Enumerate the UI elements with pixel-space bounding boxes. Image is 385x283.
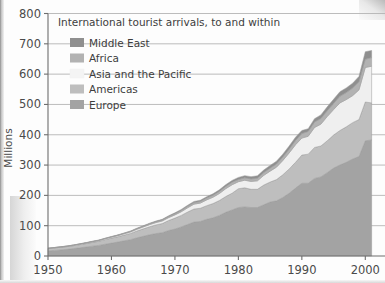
y-tick-label-200: 200 bbox=[19, 188, 41, 202]
y-axis-title: Millions bbox=[2, 128, 14, 167]
y-tick-label-100: 100 bbox=[19, 219, 41, 233]
x-axis-tick-labels: 195019601970198019902000 bbox=[33, 256, 380, 277]
y-tick-label-400: 400 bbox=[19, 128, 41, 142]
y-axis-tick-labels: 0100200300400500600700800 bbox=[19, 7, 48, 264]
legend-swatch-europe bbox=[70, 100, 84, 109]
x-tick-label-1990: 1990 bbox=[287, 263, 316, 277]
legend-label-europe: Europe bbox=[89, 99, 126, 111]
legend-swatch-africa bbox=[70, 54, 84, 63]
x-tick-label-1970: 1970 bbox=[160, 263, 189, 277]
x-tick-label-1980: 1980 bbox=[224, 263, 253, 277]
chart-page: 0100200300400500600700800 19501960197019… bbox=[0, 0, 385, 283]
area-series-group bbox=[48, 50, 372, 256]
y-tick-label-500: 500 bbox=[19, 97, 41, 111]
y-tick-label-800: 800 bbox=[19, 7, 41, 21]
y-tick-label-600: 600 bbox=[19, 67, 41, 81]
chart-title: International tourist arrivals, to and w… bbox=[58, 16, 280, 28]
legend-swatch-middle-east bbox=[70, 38, 84, 47]
x-tick-label-1950: 1950 bbox=[33, 263, 62, 277]
legend-swatch-americas bbox=[70, 85, 84, 94]
legend-label-asia-and-the-pacific: Asia and the Pacific bbox=[89, 68, 192, 80]
x-tick-label-2000: 2000 bbox=[351, 263, 380, 277]
x-tick-label-1960: 1960 bbox=[97, 263, 126, 277]
legend-label-africa: Africa bbox=[89, 52, 119, 64]
y-tick-label-300: 300 bbox=[19, 158, 41, 172]
y-tick-label-0: 0 bbox=[34, 249, 41, 263]
chart-legend: Middle EastAfricaAsia and the PacificAme… bbox=[70, 37, 192, 111]
legend-label-middle-east: Middle East bbox=[89, 37, 150, 49]
y-tick-label-700: 700 bbox=[19, 37, 41, 51]
legend-swatch-asia-and-the-pacific bbox=[70, 69, 84, 78]
legend-label-americas: Americas bbox=[89, 83, 138, 95]
stacked-area-chart: 0100200300400500600700800 19501960197019… bbox=[0, 0, 385, 283]
